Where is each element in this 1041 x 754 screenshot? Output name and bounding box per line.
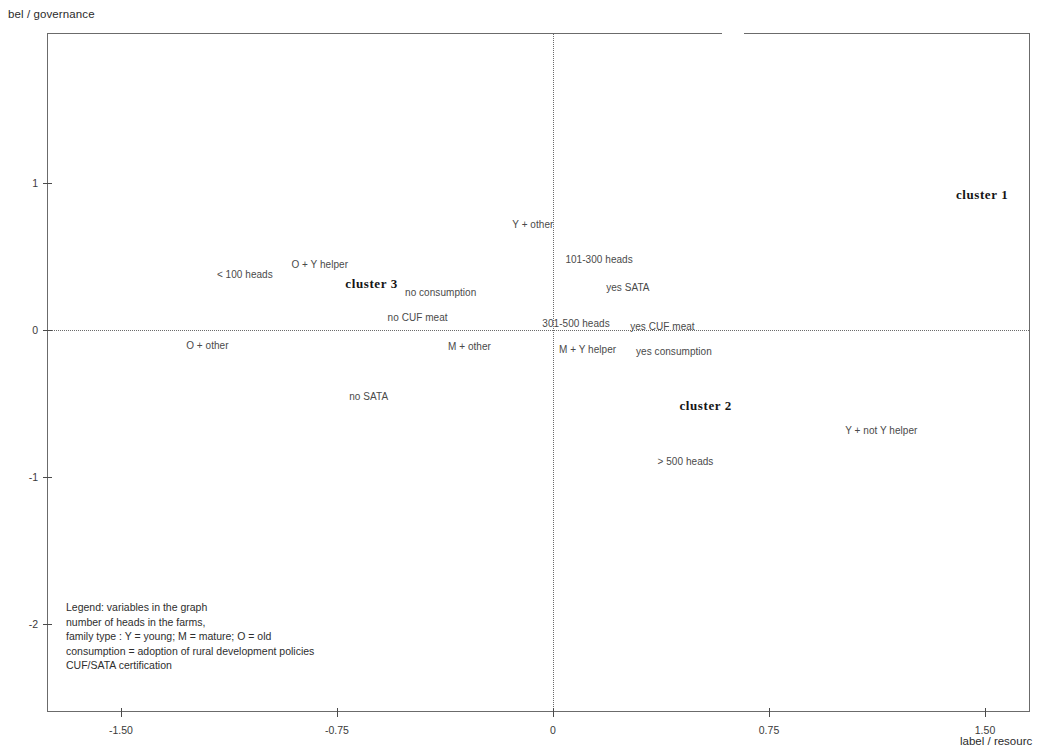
data-point-label: no consumption [405,286,476,297]
y-tick-mark [43,624,52,625]
data-point-label: 101-300 heads [565,254,632,265]
data-point-label: O + other [186,339,228,350]
legend-line: Legend: variables in the graph [66,600,314,615]
data-point-label: 301-500 heads [542,317,609,328]
x-axis-title: label / resourc [960,735,1032,747]
data-point-label: M + Y helper [559,344,616,355]
x-tick-mark [769,708,770,717]
x-tick-label: 0 [550,724,556,736]
x-tick-label: 1.50 [975,724,995,736]
data-point-label: no SATA [349,391,388,402]
y-tick-mark [43,477,52,478]
x-tick-mark [985,708,986,717]
y-tick-label: 0 [18,324,38,336]
data-point-label: > 500 heads [658,455,714,466]
x-tick-mark [337,708,338,717]
data-point-label: < 100 heads [217,269,273,280]
y-tick-mark [43,183,52,184]
data-point-label: Y + other [512,219,553,230]
data-point-label: yes CUF meat [630,320,695,331]
horizontal-reference-line [48,330,1029,331]
x-tick-mark [553,708,554,717]
frame-top-gap [722,31,744,35]
x-tick-label: 0.75 [759,724,779,736]
cluster-annotation: cluster 1 [956,187,1008,203]
legend-line: number of heads in the farms, [66,615,314,630]
data-point-label: yes consumption [636,345,712,356]
y-axis-title: bel / governance [8,8,95,20]
data-point-label: M + other [448,341,491,352]
legend-line: consumption = adoption of rural developm… [66,644,314,659]
y-tick-label: -1 [18,471,38,483]
data-point-label: no CUF meat [388,311,448,322]
legend-line: CUF/SATA certification [66,658,314,673]
cluster-annotation: cluster 2 [679,398,731,414]
y-tick-label: 1 [18,177,38,189]
cluster-annotation: cluster 3 [345,276,397,292]
x-tick-label: -0.75 [325,724,349,736]
data-point-label: yes SATA [606,282,649,293]
y-tick-mark [43,330,52,331]
x-tick-mark [121,708,122,717]
y-tick-label: -2 [18,618,38,630]
legend-line: family type : Y = young; M = mature; O =… [66,629,314,644]
data-point-label: O + Y helper [291,258,348,269]
legend-block: Legend: variables in the graphnumber of … [66,600,314,673]
x-tick-label: -1.50 [109,724,133,736]
data-point-label: Y + not Y helper [845,424,917,435]
vertical-reference-line [553,34,554,711]
